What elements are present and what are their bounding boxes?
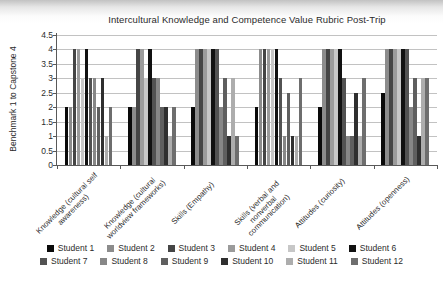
gridline: [57, 78, 437, 79]
bar: [322, 49, 326, 165]
bar: [279, 78, 283, 165]
legend-swatch-icon: [228, 245, 235, 252]
legend-label: Student 9: [172, 256, 208, 266]
legend-label: Student 6: [360, 243, 396, 253]
bar: [136, 49, 140, 165]
bar: [283, 136, 287, 165]
bar: [144, 78, 148, 165]
bar: [413, 78, 417, 165]
bar: [85, 49, 89, 165]
bar: [267, 49, 271, 165]
legend-label: Student 8: [111, 256, 147, 266]
legend-item: Student 6: [349, 243, 396, 253]
x-tick: [310, 166, 311, 169]
bar: [97, 107, 101, 165]
legend-label: Student 7: [51, 256, 87, 266]
bar: [89, 78, 93, 165]
legend-item: Student 4: [228, 243, 275, 253]
bar: [385, 49, 389, 165]
bar: [421, 78, 425, 165]
legend-item: Student 8: [100, 256, 147, 266]
y-axis-title: Benchmark 1 to Capstone 4: [8, 38, 20, 160]
x-tick: [184, 166, 185, 169]
legend-label: Student 1: [58, 243, 94, 253]
legend-label: Student 4: [239, 243, 275, 253]
legend-item: Student 11: [286, 256, 338, 266]
x-tick: [374, 166, 375, 169]
bar: [362, 78, 366, 165]
bar: [156, 78, 160, 165]
bar: [172, 107, 176, 165]
bar: [299, 78, 303, 165]
y-tick-label: 0.5: [26, 147, 53, 156]
bar: [65, 107, 69, 165]
legend-label: Student 2: [118, 243, 154, 253]
y-tick-label: 1.5: [26, 118, 53, 127]
bar: [334, 49, 338, 165]
bar: [81, 78, 85, 165]
bar-group: [318, 35, 366, 165]
gridline: [57, 136, 437, 137]
bar: [389, 49, 393, 165]
legend-item: Student 12: [351, 256, 403, 266]
bar: [215, 49, 219, 165]
bar: [168, 136, 172, 165]
y-tick-label: 3: [26, 74, 53, 83]
gridline: [57, 151, 437, 152]
legend-item: Student 10: [221, 256, 273, 266]
bar: [425, 78, 429, 165]
chart-page: { "chart_data": { "type": "bar", "title"…: [0, 0, 443, 285]
bar: [140, 49, 144, 165]
bar: [211, 49, 215, 165]
bar: [401, 49, 405, 165]
bar-group: [65, 35, 113, 165]
legend-label: Student 5: [299, 243, 335, 253]
x-category-label: Knowledge (cultural worldview frameworks…: [98, 171, 169, 242]
bar: [77, 49, 81, 165]
bar: [326, 49, 330, 165]
legend-row: Student 7Student 8Student 9Student 10Stu…: [0, 256, 443, 266]
x-category-label: Knowledge (cultural self awareness): [34, 171, 105, 242]
bar: [354, 93, 358, 165]
y-tick-label: 4: [26, 45, 53, 54]
legend-swatch-icon: [107, 245, 114, 252]
x-category-label: Attitudes (openness): [351, 171, 416, 236]
x-category-label: Skills (verbal and nonverbal communicati…: [224, 171, 301, 248]
legend-swatch-icon: [100, 258, 107, 265]
gridline: [57, 122, 437, 123]
bar: [358, 136, 362, 165]
bar-group: [381, 35, 429, 165]
bar: [203, 49, 207, 165]
x-tick: [247, 166, 248, 169]
chart-title: Intercultural Knowledge and Competence V…: [57, 14, 437, 25]
legend-swatch-icon: [40, 258, 47, 265]
bar-chart: Intercultural Knowledge and Competence V…: [0, 0, 443, 285]
legend-swatch-icon: [221, 258, 228, 265]
bar: [342, 78, 346, 165]
gridline: [57, 64, 437, 65]
bar: [259, 49, 263, 165]
bar: [128, 107, 132, 165]
y-tick-label: 3.5: [26, 60, 53, 69]
y-tick-label: 1: [26, 132, 53, 141]
y-tick-label: 4.5: [26, 31, 53, 40]
bar: [73, 49, 77, 165]
bar: [350, 136, 354, 165]
gridline: [57, 93, 437, 94]
bar: [330, 49, 334, 165]
bar: [93, 78, 97, 165]
bar: [227, 136, 231, 165]
gridline: [57, 107, 437, 108]
bar: [346, 136, 350, 165]
legend-swatch-icon: [47, 245, 54, 252]
legend-swatch-icon: [168, 245, 175, 252]
x-category-label: Skills (Empathy): [161, 171, 226, 236]
bar: [397, 49, 401, 165]
bar: [164, 107, 168, 165]
bar-group: [255, 35, 303, 165]
legend-item: Student 7: [40, 256, 87, 266]
x-category-label: Attitudes (curiosity): [288, 171, 353, 236]
legend-item: Student 1: [47, 243, 94, 253]
legend-swatch-icon: [286, 258, 293, 265]
bar: [199, 49, 203, 165]
